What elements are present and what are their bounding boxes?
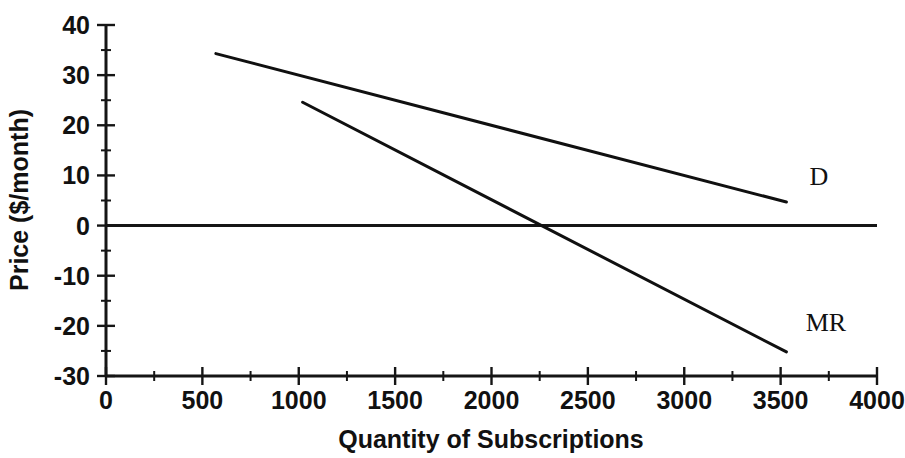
x-tick-label: 2000 — [464, 386, 520, 414]
x-tick-label: 500 — [182, 386, 224, 414]
series-labels: DMR — [806, 162, 847, 336]
y-tick-label: 30 — [62, 61, 90, 89]
y-tick-label: 40 — [62, 11, 90, 39]
series-line-d — [216, 54, 787, 202]
y-tick-label: 20 — [62, 111, 90, 139]
x-tick-label: 3000 — [656, 386, 712, 414]
y-axis-tick-labels: -30-20-10010203040 — [54, 11, 90, 390]
y-tick-label: -10 — [54, 262, 90, 290]
x-tick-label: 1000 — [271, 386, 327, 414]
x-tick-label: 3500 — [753, 386, 809, 414]
chart-plot-area: -30-20-10010203040 050010001500200025003… — [0, 0, 905, 458]
series-label-mr: MR — [806, 308, 847, 337]
chart-figure: -30-20-10010203040 050010001500200025003… — [0, 0, 905, 458]
y-tick-label: 0 — [76, 212, 90, 240]
x-tick-label: 4000 — [849, 386, 905, 414]
y-tick-label: -30 — [54, 362, 90, 390]
x-axis-title: Quantity of Subscriptions — [338, 425, 644, 453]
x-tick-label: 0 — [99, 386, 113, 414]
data-series-lines — [216, 54, 787, 352]
x-tick-label: 1500 — [367, 386, 423, 414]
x-axis-tick-labels: 05001000150020002500300035004000 — [99, 386, 905, 414]
y-tick-label: 10 — [62, 161, 90, 189]
x-tick-label: 2500 — [560, 386, 616, 414]
y-axis-title: Price ($/month) — [5, 109, 33, 291]
y-tick-label: -20 — [54, 312, 90, 340]
series-label-d: D — [810, 162, 829, 191]
